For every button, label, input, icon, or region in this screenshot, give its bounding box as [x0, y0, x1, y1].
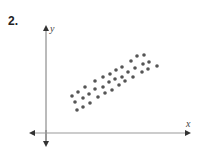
y-axis-label: y	[49, 23, 55, 34]
data-point	[101, 85, 105, 89]
scatter-plot: y x	[0, 0, 201, 158]
data-point	[108, 72, 112, 76]
x-axis-label: x	[185, 118, 191, 129]
data-point	[93, 79, 97, 83]
data-point	[103, 91, 107, 95]
data-point	[83, 85, 87, 89]
data-point	[87, 92, 91, 96]
data-point	[113, 77, 117, 81]
data-point	[140, 70, 144, 74]
data-point	[75, 108, 79, 112]
data-point	[93, 87, 97, 91]
data-point	[110, 88, 114, 92]
data-points	[70, 53, 159, 112]
data-point	[141, 62, 145, 66]
data-point	[81, 96, 85, 100]
data-point	[76, 90, 80, 94]
data-point	[126, 70, 130, 74]
data-point	[147, 60, 151, 64]
data-point	[101, 75, 105, 79]
data-point	[120, 65, 124, 69]
data-point	[146, 67, 150, 71]
data-point	[155, 64, 159, 68]
data-point	[123, 79, 127, 83]
data-point	[142, 53, 146, 57]
data-point	[114, 68, 118, 72]
data-point	[70, 94, 74, 98]
data-point	[117, 83, 121, 87]
data-point	[129, 59, 133, 63]
data-point	[131, 75, 135, 79]
data-point	[120, 75, 124, 79]
data-point	[81, 105, 85, 109]
data-point	[107, 80, 111, 84]
data-point	[88, 101, 92, 105]
data-point	[73, 100, 77, 104]
data-point	[133, 66, 137, 70]
data-point	[135, 54, 139, 58]
data-point	[96, 95, 100, 99]
